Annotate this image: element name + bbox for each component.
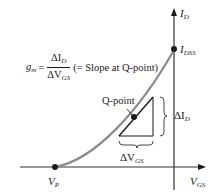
y-axis-arrow-icon (171, 8, 177, 16)
q-point (131, 114, 137, 120)
numerator: ΔID (47, 52, 70, 66)
delta-id-label: ΔID (174, 110, 190, 123)
fraction-bar (47, 67, 70, 68)
y-axis-label: ID (180, 8, 189, 21)
delta-vgs-brace (119, 141, 153, 148)
q-point-label: Q-point (102, 96, 135, 107)
slope-note: (= Slope at Q-point) (73, 62, 158, 73)
x-axis-arrow-icon (198, 164, 206, 170)
denominator: ΔVGS (47, 69, 70, 83)
idss-label: IDSS (180, 44, 196, 57)
delta-vgs-label: ΔVGS (120, 152, 144, 165)
vp-point (52, 164, 58, 170)
transconductance-formula: gm = ΔID ΔVGS (= Slope at Q-point) (26, 52, 158, 82)
gm-symbol: gm (26, 61, 36, 74)
equals-sign: = (38, 62, 44, 73)
vp-label: VP (48, 176, 59, 189)
fraction: ΔID ΔVGS (47, 52, 70, 82)
delta-id-brace (160, 97, 167, 136)
idss-point (171, 46, 177, 52)
x-axis-label: VGS (190, 176, 205, 189)
